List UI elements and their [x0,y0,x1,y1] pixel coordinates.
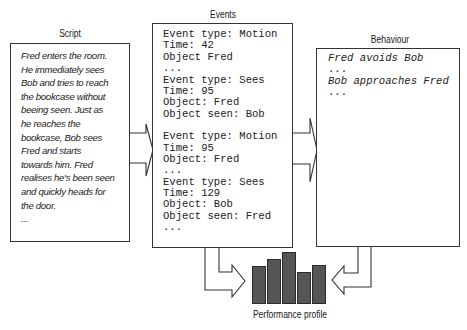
arrow-behaviour-to-profile [332,246,371,294]
script-text: Fred enters the room. He immediately see… [21,49,133,226]
event-line: Object seen: Bob [163,109,292,120]
events-box: Event type: MotionTime: 42Object Fred...… [152,23,293,248]
event-line: ... [163,165,292,176]
behaviour-line: ... [328,87,459,98]
event-line: Object Fred [163,52,292,63]
performance-profile-chart [252,253,328,304]
profile-bar [282,252,296,304]
arrow-events-to-profile [205,247,245,297]
behaviour-line: Bob approaches Fred [328,76,459,87]
profile-bar [267,259,281,304]
event-line: Object seen: Fred [163,211,292,222]
event-line: ... [163,63,292,74]
script-box: Fred enters the room. He immediately see… [10,43,130,242]
profile-bar [297,272,311,304]
arrow-events-to-behaviour [292,118,317,182]
behaviour-box: Fred avoids Bob ... Bob approaches Fred … [316,48,460,247]
behaviour-line: Fred avoids Bob [328,53,459,64]
profile-bar [312,265,326,304]
event-line: Event type: Motion [163,131,292,142]
profile-bar [252,266,266,304]
event-line: ... [163,222,292,233]
events-list: Event type: MotionTime: 42Object Fred...… [163,29,292,234]
performance-profile-label: Performance profile [248,309,333,320]
event-line: Object: Fred [163,154,292,165]
